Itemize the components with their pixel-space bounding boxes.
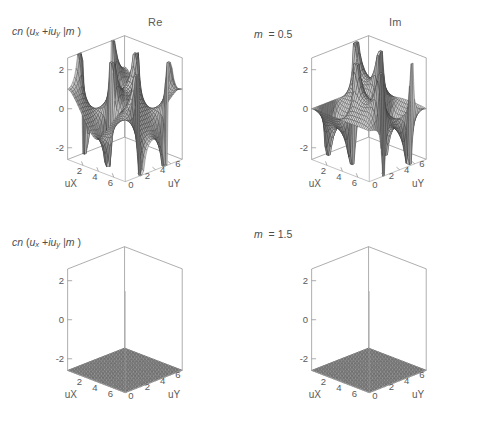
- x-tick-label: 4: [336, 382, 341, 393]
- panel-im-m05: 20-22462460uXuY: [244, 0, 488, 211]
- x-tick-label: 2: [321, 165, 326, 176]
- y-axis-name: uY: [168, 389, 181, 400]
- z-tick-label: 0: [59, 314, 64, 325]
- panel-re-m15: 20-22462460uXuY: [0, 211, 244, 422]
- z-tick-label: 2: [59, 275, 64, 286]
- z-tick-label: 2: [59, 64, 64, 75]
- y-axis-name: uY: [168, 178, 181, 189]
- y-tick-label: 6: [419, 369, 424, 380]
- x-tick-label: 6: [108, 177, 113, 188]
- y-tick-label: 6: [175, 369, 180, 380]
- surface-mesh: [312, 42, 427, 177]
- origin-tick-label: 0: [372, 390, 377, 401]
- z-tick-label: 2: [303, 64, 308, 75]
- surface-plot: 20-22462460uXuY: [244, 0, 488, 211]
- z-tick-label: 2: [303, 275, 308, 286]
- y-tick-label: 4: [160, 375, 165, 386]
- surface-mesh: [68, 40, 183, 176]
- origin-tick-label: 0: [128, 179, 133, 190]
- x-axis-name: uX: [65, 389, 78, 400]
- x-axis-name: uX: [309, 178, 322, 189]
- panel-re-m05: 20-22462460uXuY: [0, 0, 244, 211]
- x-tick-label: 4: [92, 382, 97, 393]
- z-tick-label: -2: [56, 142, 64, 153]
- x-tick-label: 6: [352, 388, 357, 399]
- figure-root: Re Im cn (ux +iuy |m ) cn (ux +iuy |m ) …: [0, 0, 488, 422]
- panel-im-m15: 20-22462460uXuY: [244, 211, 488, 422]
- y-tick-label: 6: [419, 158, 424, 169]
- z-tick-label: -2: [300, 353, 308, 364]
- x-tick-label: 2: [77, 376, 82, 387]
- y-tick-label: 4: [404, 375, 409, 386]
- origin-tick-label: 0: [128, 390, 133, 401]
- y-tick-label: 2: [145, 170, 150, 181]
- z-tick-label: 0: [59, 103, 64, 114]
- origin-tick-label: 0: [372, 179, 377, 190]
- x-axis-name: uX: [65, 178, 78, 189]
- y-tick-label: 2: [389, 170, 394, 181]
- x-tick-label: 4: [92, 171, 97, 182]
- x-tick-label: 6: [108, 388, 113, 399]
- z-tick-label: 0: [303, 103, 308, 114]
- y-tick-label: 2: [389, 381, 394, 392]
- z-tick-label: -2: [56, 353, 64, 364]
- x-tick-label: 2: [77, 165, 82, 176]
- surface-plot: 20-22462460uXuY: [0, 0, 244, 211]
- x-tick-label: 4: [336, 171, 341, 182]
- z-tick-label: 0: [303, 314, 308, 325]
- y-axis-name: uY: [412, 178, 425, 189]
- surface-plot: 20-22462460uXuY: [244, 211, 488, 422]
- y-tick-label: 2: [145, 381, 150, 392]
- y-axis-name: uY: [412, 389, 425, 400]
- x-axis-name: uX: [309, 389, 322, 400]
- x-tick-label: 2: [321, 376, 326, 387]
- z-tick-label: -2: [300, 142, 308, 153]
- y-tick-label: 4: [160, 164, 165, 175]
- y-tick-label: 6: [175, 158, 180, 169]
- surface-plot: 20-22462460uXuY: [0, 211, 244, 422]
- y-tick-label: 4: [404, 164, 409, 175]
- x-tick-label: 6: [352, 177, 357, 188]
